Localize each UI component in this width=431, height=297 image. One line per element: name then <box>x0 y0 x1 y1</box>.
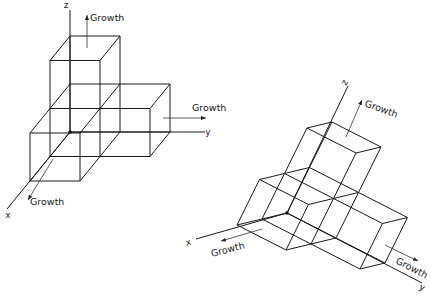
cube-edges <box>237 122 408 269</box>
cube-edge <box>336 193 359 239</box>
cube-edge <box>50 36 70 61</box>
cube-edge <box>311 244 360 269</box>
cube-edge <box>80 157 100 182</box>
cube-edge <box>359 147 382 193</box>
cube-edge <box>356 147 381 153</box>
cube-edge <box>30 109 50 134</box>
cube-edge <box>334 199 383 224</box>
cube-edge <box>100 132 120 157</box>
cube-edge <box>262 174 285 220</box>
z-axis-label: z <box>64 0 69 10</box>
cube-edge <box>286 244 311 250</box>
origin-dot <box>285 211 289 215</box>
y-axis-label: y <box>418 282 428 294</box>
growth-arrows: GrowthGrowthGrowth <box>28 12 226 207</box>
origin-dot <box>68 130 72 134</box>
cube-edge <box>50 84 70 109</box>
y-axis-label: y <box>205 127 211 137</box>
growth-label: Growth <box>363 98 399 120</box>
y-axis <box>287 213 422 283</box>
cube-edge <box>150 132 170 157</box>
cube-edge <box>309 199 334 205</box>
cube-edge <box>334 193 359 199</box>
cube-edge <box>310 122 333 168</box>
cube-edge <box>286 205 309 251</box>
cube-edge <box>100 36 120 61</box>
x-axis-label: x <box>5 210 11 220</box>
cube-edges <box>30 36 170 181</box>
cube-edge <box>360 224 383 270</box>
cube-edge <box>310 168 359 193</box>
growth-arrow-icon <box>346 100 362 137</box>
cube-edge <box>285 174 334 199</box>
cube-edge <box>262 219 311 244</box>
cube-edge <box>359 193 408 218</box>
cube-edge <box>260 174 285 180</box>
cube-edge <box>383 218 408 224</box>
cube-edge <box>311 199 334 245</box>
cube-edge <box>334 153 357 199</box>
cube-edge <box>385 218 408 264</box>
cube-edge <box>100 84 120 109</box>
cube-edge <box>332 122 381 147</box>
z-axis-label: z <box>339 78 350 87</box>
growth-label: Growth <box>394 255 430 280</box>
cube-edge <box>285 168 310 174</box>
growth-label: Growth <box>210 239 246 259</box>
cube-edge <box>150 84 170 109</box>
cube-edge <box>237 180 260 226</box>
cube-growth-diagram: xyz GrowthGrowthGrowth xyz GrowthGrowthG… <box>0 0 431 297</box>
cube-edge <box>311 238 336 244</box>
cube-edge <box>80 109 100 134</box>
x-axis-label: x <box>184 236 192 247</box>
cube-edge <box>360 263 385 269</box>
cube-edge <box>285 128 308 174</box>
left-cube-figure: xyz GrowthGrowthGrowth <box>5 0 226 220</box>
growth-label: Growth <box>192 102 226 113</box>
growth-label: Growth <box>90 12 124 23</box>
growth-label: Growth <box>30 196 64 207</box>
